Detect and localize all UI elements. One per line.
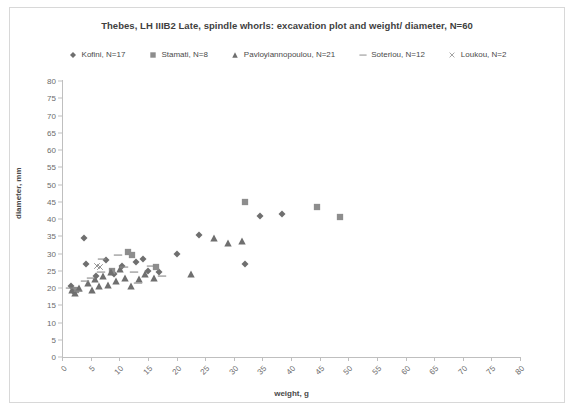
y-axis-tick-mark: [58, 288, 62, 289]
y-axis-tick-mark: [58, 305, 62, 306]
legend-item-square[interactable]: Stamati, N=8: [147, 50, 207, 59]
x-axis-tick-mark: [234, 357, 235, 361]
legend-item-label: Loukou, N=2: [461, 50, 507, 59]
x-axis-tick-mark: [320, 357, 321, 361]
plot-area: 0510152025303540455055606570758005101520…: [62, 81, 520, 357]
legend-item-diamond[interactable]: Kofini, N=17: [68, 50, 126, 59]
y-axis-tick-mark: [58, 98, 62, 99]
x-axis-tick-mark: [491, 357, 492, 361]
y-axis-tick-mark: [58, 219, 62, 220]
legend-item-label: Kofini, N=17: [82, 50, 126, 59]
y-axis-tick-mark: [58, 270, 62, 271]
data-point: [150, 274, 158, 282]
data-point: [114, 252, 123, 259]
data-point: [173, 250, 180, 257]
y-axis-tick-mark: [58, 184, 62, 185]
x-axis-tick-mark: [406, 357, 407, 361]
x-axis-tick-mark: [262, 357, 263, 361]
data-point: [196, 231, 203, 238]
x-axis-tick-mark: [291, 357, 292, 361]
x-axis-tick-mark: [205, 357, 206, 361]
x-axis-tick-mark: [62, 357, 63, 361]
x-axis-tick-mark: [520, 357, 521, 361]
data-point: [96, 264, 103, 271]
data-point: [86, 274, 95, 281]
data-point: [313, 203, 320, 210]
data-point: [336, 214, 343, 221]
x-axis-tick-mark: [377, 357, 378, 361]
data-point: [112, 277, 120, 285]
data-point: [74, 288, 83, 295]
data-point: [107, 268, 115, 276]
y-axis-title: diameter, mm: [14, 167, 23, 219]
x-axis-tick-mark: [434, 357, 435, 361]
y-axis-tick-mark: [58, 132, 62, 133]
x-axis-tick-mark: [148, 357, 149, 361]
triangle-marker-icon: [230, 52, 241, 58]
legend-item-triangle[interactable]: Pavloyiannopoulou, N=21: [230, 50, 335, 59]
data-point: [210, 234, 218, 242]
y-axis-tick-mark: [58, 322, 62, 323]
data-point: [158, 272, 167, 279]
data-point: [224, 239, 232, 247]
y-axis-tick-mark: [58, 115, 62, 116]
y-axis-tick-mark: [58, 201, 62, 202]
x-axis-tick-mark: [91, 357, 92, 361]
data-point: [121, 274, 129, 282]
cross-marker-icon: [447, 52, 458, 58]
data-point: [129, 269, 138, 276]
y-axis-tick-mark: [58, 236, 62, 237]
y-axis-tick-mark: [58, 150, 62, 151]
data-point: [119, 264, 128, 271]
legend-item-label: Soteriou, N=12: [371, 50, 425, 59]
legend-item-cross[interactable]: Loukou, N=2: [447, 50, 507, 59]
data-point: [95, 282, 103, 290]
data-point: [187, 270, 195, 278]
data-point: [83, 260, 90, 267]
chart-figure: Thebes, LH IIIB2 Late, spindle whorls: e…: [0, 0, 574, 412]
square-marker-icon: [147, 52, 158, 58]
chart-legend: Kofini, N=17Stamati, N=8Pavloyiannopoulo…: [0, 50, 574, 59]
x-axis-tick-mark: [348, 357, 349, 361]
data-point: [141, 270, 149, 278]
y-axis-tick-mark: [58, 81, 62, 82]
data-point: [146, 262, 155, 269]
diamond-marker-icon: [68, 52, 79, 58]
data-point: [256, 212, 263, 219]
x-axis-tick-mark: [463, 357, 464, 361]
data-point: [129, 252, 136, 259]
y-axis-tick-mark: [58, 339, 62, 340]
x-axis-tick-mark: [119, 357, 120, 361]
legend-item-label: Pavloyiannopoulou, N=21: [244, 50, 335, 59]
y-axis-tick-mark: [58, 253, 62, 254]
data-point: [242, 260, 249, 267]
data-point: [279, 210, 286, 217]
data-point: [238, 237, 246, 245]
data-point: [242, 198, 249, 205]
dash-marker-icon: [357, 52, 368, 58]
legend-item-dash[interactable]: Soteriou, N=12: [357, 50, 425, 59]
data-point: [80, 234, 87, 241]
data-point: [104, 281, 112, 289]
x-axis-title: weight, g: [62, 389, 521, 398]
chart-title: Thebes, LH IIIB2 Late, spindle whorls: e…: [0, 20, 574, 31]
x-axis-tick-mark: [177, 357, 178, 361]
y-axis-tick-mark: [58, 167, 62, 168]
legend-item-label: Stamati, N=8: [161, 50, 207, 59]
data-point: [133, 279, 142, 286]
